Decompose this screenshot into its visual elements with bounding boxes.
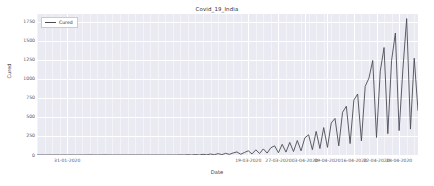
chart-figure: Covid_19_India 0250500750100012501500175… — [0, 0, 434, 186]
series-line-cured — [37, 14, 418, 155]
legend-line-swatch — [45, 22, 56, 23]
x-tick-label: 28-04-2020 — [371, 158, 427, 164]
y-axis-label-holder: Cured — [14, 0, 24, 186]
x-axis-ticks: 31-01-202019-03-202027-03-202003-04-2020… — [37, 158, 418, 166]
chart-title: Covid_19_India — [0, 5, 434, 13]
line-path-cured — [37, 19, 418, 155]
x-axis-label: Date — [0, 169, 434, 175]
plot-area — [37, 14, 418, 155]
legend-item-cured: Cured — [59, 20, 73, 26]
y-axis-label: Cured — [6, 64, 12, 79]
chart-legend: Cured — [41, 17, 78, 28]
x-tick-label: 31-01-2020 — [39, 158, 95, 164]
